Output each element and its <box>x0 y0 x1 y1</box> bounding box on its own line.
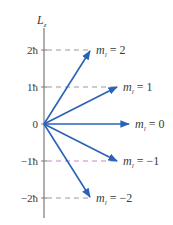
angular-momentum-vectors <box>44 51 129 197</box>
vector-label-m-2: ml = −2 <box>96 191 132 207</box>
angular-momentum-diagram: Lz 2ħ 1ħ 0 −1ħ −2ħ ml = 2 ml = 1 ml = 0 … <box>0 0 173 225</box>
vector-label-m-1: ml = −1 <box>123 154 159 170</box>
tick-label-minus1hbar: −1ħ <box>21 155 39 167</box>
vector-label-m1: ml = 1 <box>123 80 152 96</box>
axis-label: Lz <box>36 13 47 29</box>
tick-label-0: 0 <box>33 118 39 130</box>
tick-label-minus2hbar: −2ħ <box>21 192 39 204</box>
tick-label-1hbar: 1ħ <box>27 81 39 93</box>
vector-label-m0: ml = 0 <box>135 117 164 133</box>
vector-label-m2: ml = 2 <box>96 43 125 59</box>
tick-label-2hbar: 2ħ <box>27 44 39 56</box>
